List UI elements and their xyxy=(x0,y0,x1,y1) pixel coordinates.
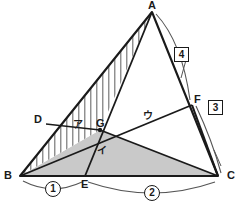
leader-fc xyxy=(214,150,221,166)
vertex-label-f: F xyxy=(194,94,201,105)
region-label-u: ウ xyxy=(143,111,153,121)
vertex-label-g: G xyxy=(96,118,105,129)
vertex-label-d: D xyxy=(34,114,42,125)
measure-circle-be: 1 xyxy=(45,181,61,197)
region-label-i: イ xyxy=(97,146,107,156)
vertex-label-a: A xyxy=(148,0,156,11)
measure-box-fc: 3 xyxy=(208,100,223,115)
geometry-figure: A B C D E F G ア イ ウ 4 3 1 2 xyxy=(0,0,241,214)
region-label-a: ア xyxy=(73,120,83,130)
figure-caption xyxy=(0,203,241,214)
geometry-canvas xyxy=(0,0,241,214)
measure-circle-ec: 2 xyxy=(144,185,160,201)
vertex-label-b: B xyxy=(4,170,12,181)
segment-fc xyxy=(192,105,218,176)
vertex-label-c: C xyxy=(227,170,235,181)
measure-box-af: 4 xyxy=(174,47,189,62)
vertex-label-e: E xyxy=(81,179,88,190)
measure-arc-fc xyxy=(196,106,221,173)
